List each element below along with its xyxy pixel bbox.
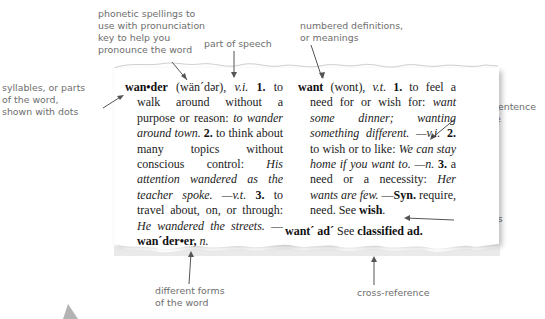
see-label: See [334,224,357,238]
definition-number: 2. [440,126,456,140]
pronunciation: (wont), [323,80,372,94]
definition-number: 3. [434,157,447,171]
definition-number: 1. [248,80,265,94]
synonyms-label: Syn. [394,188,416,202]
entry-want-ad: want´ ad´ See classified ad. [285,224,423,239]
derived-form: wan´der•er, [137,234,196,248]
definition: to wish or to like: [310,142,399,156]
torn-top-edge [114,63,498,68]
definition-number: 3. [246,188,264,202]
pronunciation: (wän´dər), [168,80,235,94]
headword: want [298,80,323,94]
part-of-speech: v.t. [372,80,386,94]
punctuation: . [382,203,385,217]
entry-wander: wan•der (wän´dər), v.i. 1. to walk aroun… [125,80,283,249]
see-label: See [336,203,359,217]
dash: — [379,188,394,202]
cross-reference-target: classified ad. [357,224,422,238]
part-of-speech: n. [196,234,208,248]
see-word: wish [359,203,382,217]
example: He wandered the streets. [137,219,265,233]
part-of-speech: —v.t. [213,188,247,202]
definition-number: 2. [201,126,213,140]
part-of-speech: —v.i. [409,126,440,140]
entry-want: want (wont), v.t. 1. to feel a need for … [298,80,456,219]
dash: — [265,219,283,233]
part-of-speech: v.i. [235,80,249,94]
decorative-corner-shape [63,304,78,319]
headword: wan•der [125,80,168,94]
part-of-speech: —n. [411,157,434,171]
headword: want´ ad´ [285,224,334,238]
arrow-different-forms [189,253,191,284]
definition-number: 1. [386,80,402,94]
